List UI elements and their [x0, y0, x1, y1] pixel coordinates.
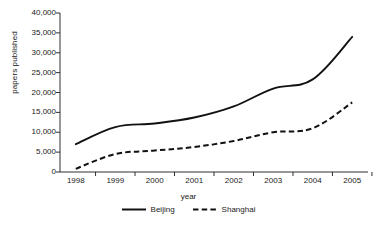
legend-label: Shanghai: [222, 205, 256, 214]
x-axis-tick-label: 2005: [332, 176, 372, 185]
x-axis-tick-label: 2003: [253, 176, 293, 185]
x-axis-tick-label: 2004: [293, 176, 333, 185]
dashed-line-swatch: [193, 205, 217, 214]
x-axis-tick-label: 2000: [135, 176, 175, 185]
chart-legend: BeijingShanghai: [0, 205, 377, 214]
axis-lines: [60, 13, 368, 172]
x-axis-tick-label: 2001: [174, 176, 214, 185]
y-axis-ticks: [56, 13, 60, 172]
legend-label: Beijing: [151, 205, 175, 214]
legend-item-beijing[interactable]: Beijing: [122, 205, 175, 214]
x-axis-tick-label: 2002: [214, 176, 254, 185]
x-axis-tick-label: 1999: [95, 176, 135, 185]
line-chart: papers published 05,00010,00015,00020,00…: [0, 0, 377, 225]
x-axis-tick-label: 1998: [56, 176, 96, 185]
x-axis-title: year: [0, 192, 377, 201]
data-lines: [76, 37, 352, 169]
solid-line-swatch: [122, 205, 146, 214]
legend-item-shanghai[interactable]: Shanghai: [193, 205, 256, 214]
